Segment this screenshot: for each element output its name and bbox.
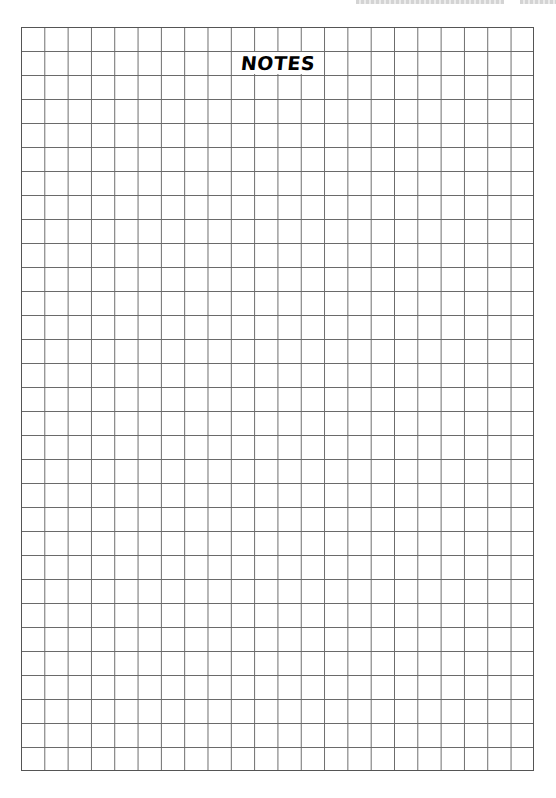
cropped-page-number — [520, 0, 556, 4]
cropped-running-header-left — [356, 0, 504, 4]
page-title: NOTES — [236, 52, 320, 74]
notes-grid — [21, 27, 534, 771]
